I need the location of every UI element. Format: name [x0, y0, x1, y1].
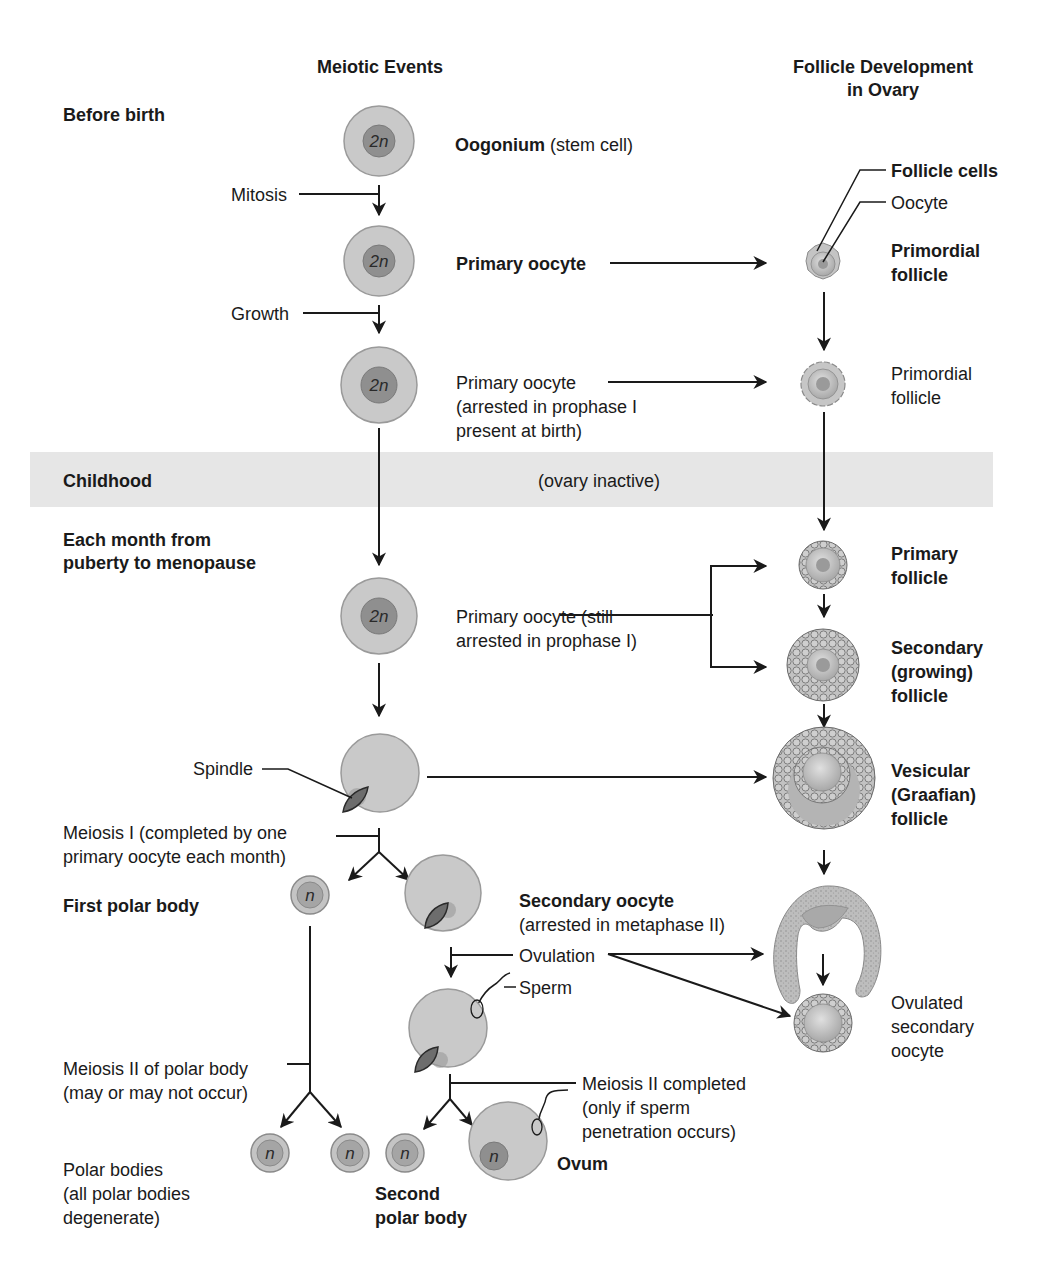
- ovum-label: Ovum: [557, 1154, 608, 1174]
- stage-monthly-line2: puberty to menopause: [63, 553, 256, 573]
- ovulated-line2: secondary: [891, 1017, 974, 1037]
- svg-text:n: n: [265, 1144, 274, 1163]
- meiosis2-polar-line1: Meiosis II of polar body: [63, 1059, 248, 1079]
- stage-childhood: Childhood: [63, 471, 152, 491]
- ovulation-label: Ovulation: [519, 946, 595, 966]
- secondary-follicle-line3: follicle: [891, 686, 948, 706]
- ruptured-follicle: [774, 886, 881, 1003]
- meiosis2-completed-line3: penetration occurs): [582, 1122, 736, 1142]
- secondary-oocyte-label: Secondary oocyte: [519, 891, 674, 911]
- secondary-follicle: [787, 629, 859, 701]
- meiosis1-line2: primary oocyte each month): [63, 847, 286, 867]
- meiosis1-line1: Meiosis I (completed by one: [63, 823, 287, 843]
- secondary-oocyte-note: (arrested in metaphase II): [519, 915, 725, 935]
- header-follicle-development: Follicle Development: [793, 57, 973, 77]
- stage-monthly-line1: Each month from: [63, 530, 211, 550]
- header-in-ovary: in Ovary: [847, 80, 919, 100]
- secondary-follicle-line1: Secondary: [891, 638, 983, 658]
- polar-bodies-line1: Polar bodies: [63, 1160, 163, 1180]
- primary-oocyte-label: Primary oocyte: [456, 254, 586, 274]
- svg-text:2n: 2n: [369, 252, 389, 271]
- polar-bodies-line2: (all polar bodies: [63, 1184, 190, 1204]
- polar-bodies-line3: degenerate): [63, 1208, 160, 1228]
- primary-oocyte-cell: 2n: [344, 226, 414, 296]
- follicle-cells-label: Follicle cells: [891, 161, 998, 181]
- ovulated-line3: oocyte: [891, 1041, 944, 1061]
- spindle-label: Spindle: [193, 759, 253, 779]
- vesicular-follicle: [773, 727, 875, 829]
- second-polar-body-cell: n: [386, 1134, 424, 1172]
- primary-oocyte-spindle-cell: [341, 734, 419, 812]
- ovary-inactive-label: (ovary inactive): [538, 471, 660, 491]
- stage-before-birth: Before birth: [63, 105, 165, 125]
- svg-text:n: n: [400, 1144, 409, 1163]
- meiosis2-completed-line1: Meiosis II completed: [582, 1074, 746, 1094]
- secondary-follicle-line2: (growing): [891, 662, 973, 682]
- ovulated-line1: Ovulated: [891, 993, 963, 1013]
- vesicular-follicle-line1: Vesicular: [891, 761, 970, 781]
- svg-text:2n: 2n: [369, 607, 389, 626]
- primary-follicle-line1: Primary: [891, 544, 958, 564]
- primary-oocyte-still-arrested-cell: 2n: [341, 578, 417, 654]
- mitosis-label: Mitosis: [231, 185, 287, 205]
- header-meiotic-events: Meiotic Events: [317, 57, 443, 77]
- primary-still-line1: Primary oocyte (still: [456, 607, 613, 627]
- second-polar-body-line1: Second: [375, 1184, 440, 1204]
- primary-still-line2: arrested in prophase I): [456, 631, 637, 651]
- svg-text:2n: 2n: [369, 132, 389, 151]
- primordial-follicle-bold-line2: follicle: [891, 265, 948, 285]
- sperm-label: Sperm: [519, 978, 572, 998]
- primordial-follicle-line1: Primordial: [891, 364, 972, 384]
- childhood-band: [30, 452, 993, 507]
- primordial-follicle-line2: follicle: [891, 388, 941, 408]
- primary-follicle: [799, 541, 847, 589]
- vesicular-follicle-line3: follicle: [891, 809, 948, 829]
- first-polar-body-label: First polar body: [63, 896, 199, 916]
- growth-label: Growth: [231, 304, 289, 324]
- oogonium-label: Oogonium (stem cell): [455, 135, 633, 155]
- svg-text:n: n: [305, 886, 314, 905]
- ovulated-secondary-oocyte: [794, 994, 852, 1052]
- vesicular-follicle-line2: (Graafian): [891, 785, 976, 805]
- oogenesis-diagram: Meiotic Events Follicle Development in O…: [0, 0, 1051, 1270]
- polar-body-cell-2: n: [331, 1134, 369, 1172]
- svg-text:n: n: [489, 1147, 498, 1166]
- primary-oocyte-arrested-cell: 2n: [341, 347, 417, 423]
- second-polar-body-line2: polar body: [375, 1208, 467, 1228]
- first-polar-body-cell: n: [291, 876, 329, 914]
- primary-arrested-line3: present at birth): [456, 421, 582, 441]
- primary-arrested-line2: (arrested in prophase I: [456, 397, 637, 417]
- fertilized-secondary-oocyte-cell: [409, 989, 487, 1072]
- svg-text:2n: 2n: [369, 376, 389, 395]
- polar-body-cell-1: n: [251, 1134, 289, 1172]
- oogonium-cell: 2n: [344, 106, 414, 176]
- primary-follicle-line2: follicle: [891, 568, 948, 588]
- svg-text:n: n: [345, 1144, 354, 1163]
- meiosis2-polar-line2: (may or may not occur): [63, 1083, 248, 1103]
- secondary-oocyte-cell: [405, 855, 481, 931]
- primordial-follicle-2: [801, 362, 845, 406]
- primordial-follicle-bold-line1: Primordial: [891, 241, 980, 261]
- ovum-cell: n: [469, 1090, 568, 1180]
- oocyte-label: Oocyte: [891, 193, 948, 213]
- meiosis2-completed-line2: (only if sperm: [582, 1098, 690, 1118]
- primary-arrested-line1: Primary oocyte: [456, 373, 576, 393]
